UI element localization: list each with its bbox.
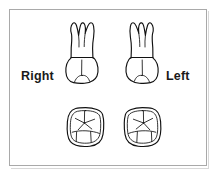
tooth-upper-left-occlusal-view: [120, 105, 164, 151]
frame-shadow-bottom: [11, 168, 209, 169]
tooth-upper-left-buccal-view: [116, 19, 164, 91]
tooth-ur-root-outline: [71, 23, 94, 58]
label-left: Left: [166, 70, 190, 83]
tooth-ul-occl-lingual-groove-2: [137, 132, 138, 143]
tooth-upper-right-occlusal-view: [64, 105, 108, 151]
tooth-upper-right-buccal-view: [60, 19, 108, 91]
frame-shadow-right: [208, 11, 209, 168]
dental-figure-root: Right Left: [0, 0, 218, 183]
figure-frame-border: [9, 9, 207, 166]
label-right: Right: [21, 70, 54, 83]
tooth-ur-occl-lingual-groove-2: [91, 132, 92, 143]
tooth-ul-root-outline: [130, 23, 153, 58]
